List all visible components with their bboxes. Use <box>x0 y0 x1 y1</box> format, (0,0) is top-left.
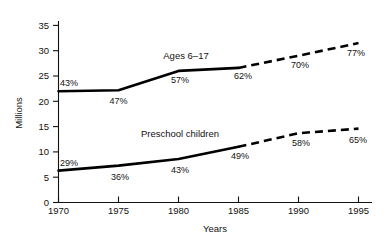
point-label-a-1985: 62% <box>234 71 252 81</box>
y-tick-label-10: 10 <box>38 146 49 157</box>
point-label-a-1990: 70% <box>291 60 309 70</box>
point-label-a-1995: 77% <box>347 48 365 58</box>
series-preschool-children-solid <box>59 147 239 171</box>
series-label-ages-6-17: Ages 6–17 <box>163 50 208 61</box>
chart-canvas: 0 5 10 15 20 25 30 35 1970 1975 1980 198… <box>0 0 386 244</box>
y-tick-label-25: 25 <box>38 70 49 81</box>
y-tick-label-35: 35 <box>38 20 49 31</box>
point-label-b-1995: 65% <box>349 135 367 145</box>
y-tick-label-5: 5 <box>44 172 49 183</box>
point-label-b-1990: 58% <box>292 138 310 148</box>
y-tick-label-20: 20 <box>38 96 49 107</box>
x-tick-marks <box>59 197 359 203</box>
point-labels-preschool-children: 29% 36% 43% 49% 58% 65% <box>60 135 367 182</box>
x-tick-label-1985: 1985 <box>228 205 249 216</box>
point-label-b-1985: 49% <box>231 151 249 161</box>
x-tick-labels: 1970 1975 1980 1985 1990 1995 <box>48 205 369 216</box>
series-ages-6-17-solid <box>59 68 239 91</box>
x-tick-label-1995: 1995 <box>348 205 369 216</box>
y-tick-label-30: 30 <box>38 45 49 56</box>
x-axis-title: Years <box>203 223 227 234</box>
point-label-a-1980: 57% <box>171 75 189 85</box>
point-label-b-1970: 29% <box>60 158 78 168</box>
axes-group <box>59 21 373 203</box>
y-tick-labels: 0 5 10 15 20 25 30 35 <box>38 20 49 208</box>
point-label-a-1975: 47% <box>109 96 127 106</box>
x-tick-label-1970: 1970 <box>48 205 69 216</box>
y-tick-marks <box>53 25 59 202</box>
point-labels-ages-6-17: 43% 47% 57% 62% 70% 77% <box>60 48 365 106</box>
line-chart: 0 5 10 15 20 25 30 35 1970 1975 1980 198… <box>0 0 386 244</box>
y-axis-title: Millions <box>13 97 24 129</box>
y-tick-label-15: 15 <box>38 121 49 132</box>
x-tick-label-1980: 1980 <box>168 205 189 216</box>
point-label-b-1975: 36% <box>111 172 129 182</box>
x-tick-label-1990: 1990 <box>288 205 309 216</box>
series-label-preschool-children: Preschool children <box>141 128 219 139</box>
point-label-a-1970: 43% <box>60 78 78 88</box>
point-label-b-1980: 43% <box>171 165 189 175</box>
x-tick-label-1975: 1975 <box>108 205 129 216</box>
